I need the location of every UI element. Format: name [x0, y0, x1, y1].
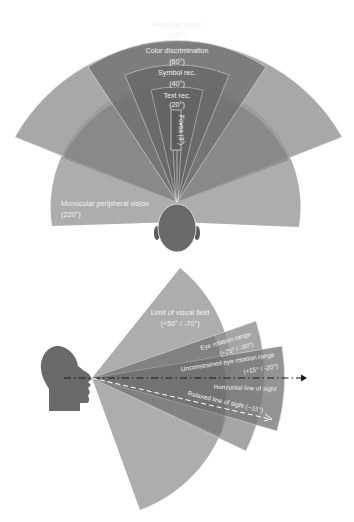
fovea-label: Fovea (3°) [177, 115, 185, 145]
text-label: Text rec. [163, 91, 190, 100]
limit-angle: (+50° / -70°) [160, 319, 199, 328]
horizontal-arrow-icon [301, 375, 307, 382]
symbol-label: Symbol rec. [158, 68, 196, 77]
color-angle: (60°) [169, 57, 185, 66]
binocular-label: Binocular vision [152, 20, 202, 29]
monocular-angle: (220°) [61, 210, 81, 219]
text-angle: (20°) [169, 100, 185, 109]
side-view-diagram: Limit of visual field (+50° / -70°) Eye … [41, 268, 307, 510]
top-view-diagram: Binocular vision (120°) Color discrimina… [15, 20, 342, 252]
color-label: Color discrimination [145, 46, 208, 55]
monocular-label: Monocular peripheral vision [61, 199, 149, 208]
binocular-angle: (120°) [167, 31, 187, 40]
symbol-angle: (40°) [169, 79, 185, 88]
limit-label: Limit of visual field [151, 308, 210, 317]
field-of-view-diagram: Binocular vision (120°) Color discrimina… [0, 0, 354, 522]
